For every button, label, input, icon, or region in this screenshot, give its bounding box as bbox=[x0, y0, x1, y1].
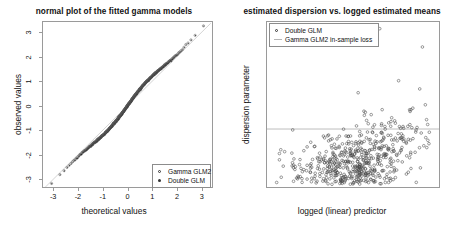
qq-plot-area bbox=[42, 21, 213, 188]
x-tick-mark bbox=[128, 188, 129, 191]
x-tick-mark bbox=[53, 188, 54, 191]
y-tick-mark bbox=[39, 130, 42, 131]
figure-two-panel-plot: normal plot of the fitted gamma models o… bbox=[0, 0, 456, 229]
y-tick-mark bbox=[39, 179, 42, 180]
x-tick-label: -1 bbox=[99, 192, 106, 201]
panel-dispersion-plot: estimated dispersion vs. logged estimate… bbox=[228, 0, 456, 229]
qq-plot-legend: Gamma GLM2 Double GLM bbox=[152, 164, 211, 188]
open-circle-icon bbox=[273, 26, 282, 35]
x-tick-mark bbox=[177, 188, 178, 191]
dispersion-plot-title: estimated dispersion vs. logged estimate… bbox=[228, 6, 456, 17]
x-tick-label: 2 bbox=[175, 192, 179, 201]
dispersion-plot-x-axis-label: logged (linear) predictor bbox=[228, 206, 456, 216]
filled-circle-icon bbox=[156, 176, 165, 185]
y-tick-label: -2 bbox=[24, 147, 33, 163]
y-tick-mark bbox=[39, 32, 42, 33]
dispersion-plot-y-axis-label: dispersion parameter bbox=[241, 65, 251, 144]
y-tick-label: -1 bbox=[24, 123, 33, 139]
y-tick-mark bbox=[39, 57, 42, 58]
x-tick-label: -3 bbox=[50, 192, 57, 201]
qq-plot-x-axis-label: theoretical values bbox=[0, 206, 228, 216]
dispersion-plot-legend: Double GLM Gamma GLM2 in-sample loss bbox=[269, 23, 379, 47]
x-tick-mark bbox=[202, 188, 203, 191]
legend-item-double-glm: Double GLM bbox=[273, 26, 374, 35]
legend-item-insample-loss: Gamma GLM2 in-sample loss bbox=[273, 35, 374, 44]
x-tick-mark bbox=[103, 188, 104, 191]
open-circle-icon bbox=[156, 167, 165, 176]
x-tick-label: -2 bbox=[75, 192, 82, 201]
horizontal-line-icon bbox=[273, 35, 282, 44]
y-tick-mark bbox=[39, 155, 42, 156]
legend-label-insample-loss: Gamma GLM2 in-sample loss bbox=[285, 35, 372, 44]
x-tick-label: 0 bbox=[125, 192, 129, 201]
qq-plot-y-axis-label: observed values bbox=[13, 74, 23, 135]
legend-label-double-glm: Double GLM bbox=[285, 26, 322, 35]
y-tick-label: -3 bbox=[24, 172, 33, 188]
legend-label-double-glm: Double GLM bbox=[168, 176, 205, 185]
x-tick-mark bbox=[152, 188, 153, 191]
y-tick-mark bbox=[39, 81, 42, 82]
qq-plot-title: normal plot of the fitted gamma models bbox=[0, 6, 228, 17]
x-tick-label: 1 bbox=[150, 192, 154, 201]
x-tick-label: 3 bbox=[200, 192, 204, 201]
y-tick-label: 3 bbox=[24, 25, 33, 41]
legend-label-gamma-glm2: Gamma GLM2 bbox=[168, 167, 211, 176]
y-tick-mark bbox=[39, 106, 42, 107]
legend-item-gamma-glm2: Gamma GLM2 bbox=[156, 167, 206, 176]
y-tick-label: 0 bbox=[24, 98, 33, 114]
legend-item-double-glm: Double GLM bbox=[156, 176, 206, 185]
x-tick-mark bbox=[78, 188, 79, 191]
y-tick-label: 2 bbox=[24, 49, 33, 65]
panel-normal-plot: normal plot of the fitted gamma models o… bbox=[0, 0, 228, 229]
y-tick-label: 1 bbox=[24, 74, 33, 90]
